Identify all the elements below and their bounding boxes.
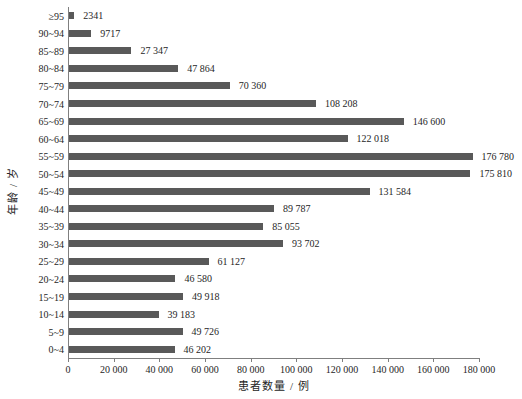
y-tick-label: 40~44: [39, 203, 64, 214]
value-label: 131 584: [379, 186, 412, 197]
value-label: 61 127: [218, 256, 246, 267]
bar-row: 20~2446 580: [69, 270, 480, 288]
bar: [69, 188, 370, 195]
y-tick-label: 55~59: [39, 151, 64, 162]
y-tick-label: 15~19: [39, 291, 64, 302]
bar-row: 45~49131 584: [69, 182, 480, 200]
bar-row: 70~74108 208: [69, 95, 480, 113]
y-tick-label: 85~89: [39, 45, 64, 56]
age-distribution-bar-chart: 年龄 / 岁 ≥95234190~94971785~8927 34780~844…: [0, 0, 522, 399]
bar: [69, 240, 283, 247]
bar: [69, 30, 91, 37]
x-tick-label: 80 000: [237, 364, 265, 375]
y-tick-label: 65~69: [39, 116, 64, 127]
value-label: 176 780: [482, 151, 515, 162]
bar-row: 25~2961 127: [69, 253, 480, 271]
value-label: 27 347: [140, 45, 168, 56]
value-label: 89 787: [283, 203, 311, 214]
plot-area: ≥95234190~94971785~8927 34780~8447 86475…: [68, 7, 480, 359]
value-label: 146 600: [413, 116, 446, 127]
value-label: 93 702: [292, 238, 320, 249]
bar: [69, 293, 183, 300]
bar: [69, 135, 348, 142]
value-label: 70 360: [239, 80, 267, 91]
x-tick-mark: [68, 358, 69, 362]
x-tick-mark: [388, 358, 389, 362]
x-tick-label: 0: [66, 364, 71, 375]
bar-row: 85~8927 347: [69, 42, 480, 60]
bar-row: 30~3493 702: [69, 235, 480, 253]
x-tick-label: 60 000: [191, 364, 219, 375]
bar-row: 80~8447 864: [69, 60, 480, 78]
y-tick-label: 45~49: [39, 186, 64, 197]
bar: [69, 275, 175, 282]
bar-row: ≥952341: [69, 7, 480, 25]
bar: [69, 258, 209, 265]
value-label: 2341: [83, 10, 103, 21]
y-tick-label: 90~94: [39, 28, 64, 39]
x-axis-title: 患者数量 / 例: [238, 377, 310, 393]
bar: [69, 223, 263, 230]
value-label: 49 918: [192, 291, 220, 302]
bar: [69, 328, 183, 335]
value-label: 46 580: [184, 273, 212, 284]
x-tick-label: 140 000: [371, 364, 404, 375]
value-label: 175 810: [479, 168, 512, 179]
bar: [69, 12, 74, 19]
bar: [69, 346, 175, 353]
bar-row: 90~949717: [69, 25, 480, 43]
value-label: 47 864: [187, 63, 215, 74]
y-tick-label: 60~64: [39, 133, 64, 144]
y-tick-label: 30~34: [39, 238, 64, 249]
x-tick-label: 100 000: [280, 364, 313, 375]
value-label: 46 202: [184, 344, 212, 355]
bar: [69, 153, 473, 160]
x-tick-mark: [433, 358, 434, 362]
value-label: 49 726: [192, 326, 220, 337]
bar-row: 10~1439 183: [69, 305, 480, 323]
y-tick-label: 5~9: [49, 326, 64, 337]
value-label: 122 018: [357, 133, 390, 144]
x-tick-mark: [342, 358, 343, 362]
value-label: 108 208: [325, 98, 358, 109]
y-axis-title: 年龄 / 岁: [4, 156, 20, 226]
bar-row: 35~3985 055: [69, 218, 480, 236]
bar-row: 65~69146 600: [69, 112, 480, 130]
bar-row: 60~64122 018: [69, 130, 480, 148]
x-tick-label: 40 000: [146, 364, 174, 375]
y-tick-label: ≥95: [49, 10, 65, 21]
bar: [69, 47, 131, 54]
x-tick-mark: [159, 358, 160, 362]
bar-row: 50~54175 810: [69, 165, 480, 183]
y-tick-label: 80~84: [39, 63, 64, 74]
bar-row: 15~1949 918: [69, 288, 480, 306]
bar-row: 40~4489 787: [69, 200, 480, 218]
x-tick-mark: [205, 358, 206, 362]
x-tick-mark: [114, 358, 115, 362]
bar: [69, 311, 159, 318]
y-tick-label: 75~79: [39, 80, 64, 91]
bar-row: 5~949 726: [69, 323, 480, 341]
value-label: 39 183: [168, 309, 196, 320]
bar: [69, 100, 316, 107]
y-tick-label: 35~39: [39, 221, 64, 232]
bar-row: 75~7970 360: [69, 77, 480, 95]
bar-row: 0~446 202: [69, 340, 480, 358]
y-tick-label: 0~4: [49, 344, 64, 355]
bar: [69, 170, 470, 177]
bar: [69, 82, 230, 89]
x-tick-label: 160 000: [417, 364, 450, 375]
x-tick-label: 20 000: [100, 364, 128, 375]
bar: [69, 205, 274, 212]
value-label: 9717: [100, 28, 120, 39]
x-tick-label: 120 000: [326, 364, 359, 375]
bar: [69, 65, 178, 72]
y-tick-label: 50~54: [39, 168, 64, 179]
y-tick-label: 10~14: [39, 309, 64, 320]
bar-row: 55~59176 780: [69, 147, 480, 165]
x-tick-mark: [479, 358, 480, 362]
y-tick-label: 70~74: [39, 98, 64, 109]
y-tick-label: 20~24: [39, 273, 64, 284]
x-tick-label: 180 000: [463, 364, 496, 375]
value-label: 85 055: [272, 221, 300, 232]
